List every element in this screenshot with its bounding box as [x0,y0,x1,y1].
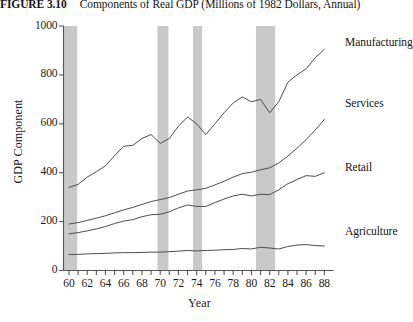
series-label-agriculture: Agriculture [345,225,397,237]
recession-bands-group [64,26,276,271]
y-axis-title: GDP Component [11,77,26,207]
y-tick-label-600: 600 [12,116,58,128]
series-label-retail: Retail [345,161,372,173]
series-label-services: Services [345,97,384,109]
y-tick-label-1000: 1000 [12,19,58,31]
recession-band-2 [193,26,202,271]
tick-marks-group [59,26,324,275]
series-label-manufacturing: Manufacturing [345,36,413,48]
recession-band-3 [256,26,275,271]
y-tick-label-400: 400 [12,165,58,177]
x-axis-title: Year [0,296,399,311]
y-tick-label-0: 0 [12,263,58,275]
x-tick-label-88: 88 [312,277,336,289]
y-tick-label-200: 200 [12,214,58,226]
recession-band-1 [157,26,168,271]
y-tick-label-800: 800 [12,67,58,79]
